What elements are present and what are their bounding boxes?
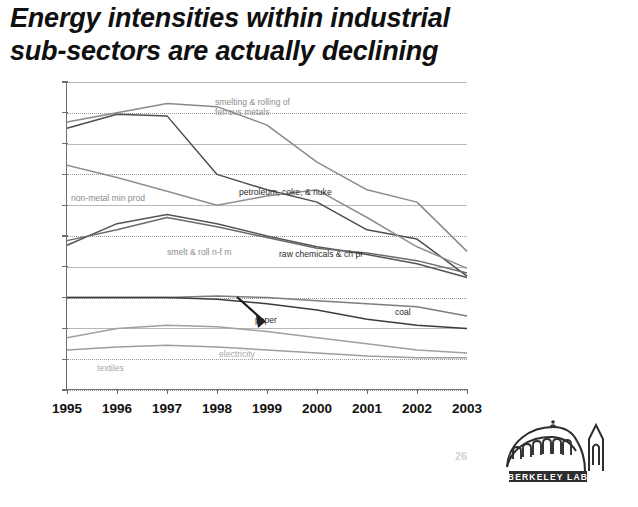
series-line	[67, 165, 467, 268]
series-label: smelting & rolling offerrous metals	[215, 98, 290, 118]
series-line	[67, 218, 467, 273]
berkeley-lab-logo: BERKELEY LAB	[497, 415, 617, 487]
series-label-line-2: ferrous metals	[215, 108, 290, 118]
x-tick-label: 1999	[252, 401, 282, 416]
x-tick-label: 1996	[102, 401, 132, 416]
series-label: petroleum, coke, & nuke	[239, 188, 332, 198]
x-tick-label: 2003	[452, 401, 482, 416]
series-label: smelt & roll n-f m	[167, 248, 231, 258]
logo-graphic: BERKELEY LAB	[497, 415, 617, 487]
page-number: 26	[455, 450, 467, 462]
x-tick-label: 1997	[152, 401, 182, 416]
series-line	[67, 345, 467, 357]
series-label: coal	[395, 308, 411, 318]
logo-text: BERKELEY LAB	[508, 472, 588, 482]
series-label: raw chemicals & ch pr	[279, 250, 363, 260]
title-line-2: sub-sectors are actually declining	[10, 35, 618, 68]
series-label-line-1: smelting & rolling of	[215, 97, 290, 107]
page-title: Energy intensities within industrial sub…	[10, 2, 618, 68]
series-line	[67, 214, 467, 277]
x-tick-label: 1995	[52, 401, 82, 416]
series-line	[67, 104, 467, 252]
series-label: textiles	[97, 364, 124, 374]
x-tick-label: 2000	[302, 401, 332, 416]
series-line	[67, 325, 467, 353]
series-label: paper	[255, 316, 277, 326]
x-tick-label: 2002	[402, 401, 432, 416]
series-label: non-metal min prod	[71, 194, 145, 204]
series-label: electricity	[219, 350, 255, 360]
x-tick	[467, 389, 468, 394]
line-chart: 0.00.20.40.60.81.01.21.41.61.82.0 199519…	[0, 72, 500, 412]
slide-canvas: Energy intensities within industrial sub…	[0, 0, 638, 507]
x-tick-label: 2001	[352, 401, 382, 416]
x-tick-label: 1998	[202, 401, 232, 416]
plot-area: 0.00.20.40.60.81.01.21.41.61.82.0 199519…	[67, 82, 467, 390]
series-lines	[67, 82, 467, 390]
title-line-1: Energy intensities within industrial	[10, 2, 618, 35]
